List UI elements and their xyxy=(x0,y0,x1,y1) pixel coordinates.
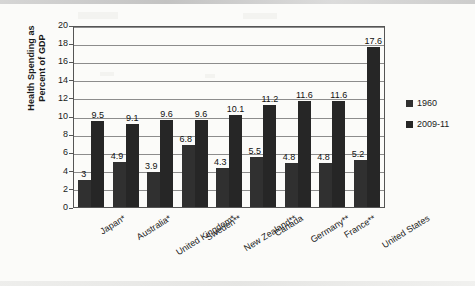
bar: 3.9 xyxy=(147,172,160,207)
bar: 11.6 xyxy=(332,101,345,207)
y-axis-tick-mark xyxy=(69,80,73,81)
bar-value-label: 9.1 xyxy=(126,114,139,123)
bar-group: 4.99.1 xyxy=(108,27,142,207)
bar: 17.6 xyxy=(367,47,380,207)
bar-value-label: 9.5 xyxy=(91,111,104,120)
bar: 9.6 xyxy=(195,120,208,207)
scan-artifact xyxy=(78,12,118,19)
bar: 3 xyxy=(78,180,91,207)
bar: 9.1 xyxy=(126,124,139,207)
bar-value-label: 17.6 xyxy=(364,37,382,46)
y-axis-tick-label: 6 xyxy=(38,148,68,157)
bar: 9.6 xyxy=(160,120,173,207)
bar-value-label: 11.6 xyxy=(330,91,347,100)
scan-artifact xyxy=(243,13,277,19)
bar: 11.6 xyxy=(298,101,311,207)
bar: 9.5 xyxy=(91,121,104,207)
bar-value-label: 6.8 xyxy=(180,135,193,144)
y-axis-tick-mark xyxy=(69,135,73,136)
y-axis-tick-mark xyxy=(69,44,73,45)
legend-label: 2009-11 xyxy=(417,120,449,129)
legend-swatch-icon xyxy=(406,121,413,128)
y-axis-tick-label: 16 xyxy=(38,57,68,66)
legend-swatch-icon xyxy=(406,100,413,107)
bar-value-label: 3.9 xyxy=(145,162,158,171)
bar-group: 39.5 xyxy=(74,27,108,207)
bar-group: 4.811.6 xyxy=(315,27,349,207)
x-axis-labels: Japan*Australia*United Kingdom*Sweden**N… xyxy=(73,209,385,267)
bar-value-label: 4.8 xyxy=(283,153,296,162)
bar-value-label: 5.2 xyxy=(352,150,365,159)
bar-value-label: 11.6 xyxy=(296,91,313,100)
bar: 4.9 xyxy=(113,162,126,207)
y-axis-tick-mark xyxy=(69,62,73,63)
bar-value-label: 3 xyxy=(81,170,86,179)
legend-item[interactable]: 2009-11 xyxy=(406,120,449,129)
bar-groups: 39.54.99.13.99.66.89.64.310.15.511.24.81… xyxy=(74,27,384,207)
chart-figure: Health Spending as Percent of GDP 39.54.… xyxy=(0,0,475,286)
bar: 11.2 xyxy=(263,105,276,207)
y-axis-tick-mark xyxy=(69,98,73,99)
y-axis-tick-label: 14 xyxy=(38,76,68,85)
x-axis-tick-label: Australia* xyxy=(135,213,173,242)
y-axis-tick-mark xyxy=(69,117,73,118)
y-axis-tick-mark xyxy=(69,189,73,190)
scan-edge-bottom xyxy=(0,281,475,286)
bar: 6.8 xyxy=(182,145,195,207)
bar-value-label: 4.9 xyxy=(111,152,124,161)
scan-edge-top xyxy=(0,0,475,4)
bar-value-label: 11.2 xyxy=(261,95,278,104)
bar: 4.8 xyxy=(319,163,332,207)
y-axis-tick-label: 18 xyxy=(38,39,68,48)
y-axis-tick-label: 10 xyxy=(38,112,68,121)
bar-group: 3.99.6 xyxy=(143,27,177,207)
bar: 5.2 xyxy=(354,160,367,207)
y-axis-tick-mark xyxy=(69,26,73,27)
bar: 4.3 xyxy=(216,168,229,207)
y-axis-title-line1: Health Spending as xyxy=(26,3,37,133)
bar-group: 4.310.1 xyxy=(212,27,246,207)
bar-group: 5.511.2 xyxy=(246,27,280,207)
legend-item[interactable]: 1960 xyxy=(406,99,449,108)
y-axis-tick-label: 0 xyxy=(38,203,68,212)
bar-value-label: 9.6 xyxy=(195,110,208,119)
legend-label: 1960 xyxy=(417,99,437,108)
plot-area: 39.54.99.13.99.66.89.64.310.15.511.24.81… xyxy=(73,26,385,208)
bar: 10.1 xyxy=(229,115,242,207)
bar-group: 6.89.6 xyxy=(177,27,211,207)
bar-group: 5.217.6 xyxy=(350,27,384,207)
bar: 4.8 xyxy=(285,163,298,207)
bar-value-label: 9.6 xyxy=(160,110,173,119)
bar-value-label: 10.1 xyxy=(227,105,245,114)
bar-value-label: 4.8 xyxy=(317,153,330,162)
y-axis-tick-label: 12 xyxy=(38,94,68,103)
bar: 5.5 xyxy=(250,157,263,207)
y-axis-tick-label: 2 xyxy=(38,185,68,194)
bar-value-label: 4.3 xyxy=(214,158,227,167)
y-axis-tick-label: 20 xyxy=(38,21,68,30)
y-axis-tick-mark xyxy=(69,171,73,172)
y-axis-tick-mark xyxy=(69,153,73,154)
bar-value-label: 5.5 xyxy=(248,147,261,156)
y-axis-tick-label: 8 xyxy=(38,130,68,139)
bar-group: 4.811.6 xyxy=(281,27,315,207)
x-axis-tick-label: Japan* xyxy=(99,213,128,236)
legend: 19602009-11 xyxy=(406,99,449,141)
y-axis-tick-label: 4 xyxy=(38,167,68,176)
x-axis-tick-label: United States xyxy=(380,213,431,250)
